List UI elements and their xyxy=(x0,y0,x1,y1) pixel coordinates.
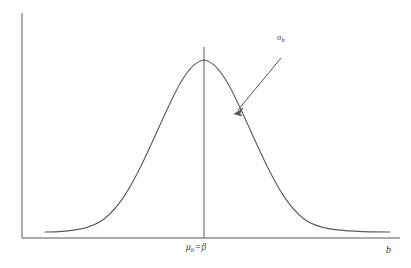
plot-canvas xyxy=(0,0,411,268)
x-axis-label: b xyxy=(386,245,391,255)
mean-axis-label: μb=β xyxy=(186,243,206,254)
sigma-subscript: b xyxy=(281,36,284,43)
normal-distribution-curve xyxy=(45,60,390,232)
beta-symbol: β xyxy=(202,242,207,252)
equals-sign: = xyxy=(194,242,201,252)
gaussian-distribution-figure: σb μb=β b xyxy=(0,0,411,268)
sigma-annotation-arrow-line xyxy=(238,58,281,110)
sigma-annotation-label: σb xyxy=(277,33,285,43)
